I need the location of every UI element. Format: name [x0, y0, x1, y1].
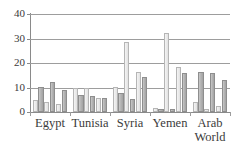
x-tick-label-line: Syria: [117, 116, 143, 130]
bar: [38, 87, 43, 112]
bar: [158, 109, 163, 112]
bar: [50, 82, 55, 112]
bar: [78, 95, 83, 112]
bar: [33, 100, 38, 112]
bar: [164, 33, 169, 112]
bar: [73, 88, 78, 112]
bar-chart: 010203040 EgyptTunisiaSyriaYemenArabWorl…: [0, 0, 234, 150]
bar: [136, 72, 141, 112]
bar-group: [70, 14, 110, 112]
y-axis-labels: 010203040: [0, 0, 27, 150]
bar-group: [150, 14, 190, 112]
bar: [102, 98, 107, 112]
bar: [84, 88, 89, 112]
y-tick-label: 20: [0, 57, 25, 68]
bar-group: [30, 14, 70, 112]
x-axis-labels: EgyptTunisiaSyriaYemenArabWorld: [30, 116, 234, 150]
bar: [96, 98, 101, 112]
bar: [113, 87, 118, 112]
bar-group: [110, 14, 150, 112]
bar: [142, 77, 147, 112]
bar: [118, 93, 123, 112]
y-tick-label: 40: [0, 8, 25, 19]
bar: [176, 67, 181, 112]
bar: [182, 73, 187, 112]
bar: [222, 80, 227, 112]
bar-group: [190, 14, 230, 112]
axis-baseline: [30, 112, 230, 113]
bar: [153, 108, 158, 112]
bar: [90, 96, 95, 112]
bar: [56, 104, 61, 112]
y-tick-label: 0: [0, 106, 25, 117]
x-tick-label-line: Egypt: [35, 116, 65, 130]
bar: [204, 109, 209, 112]
x-tick-label-line: Arab: [198, 116, 223, 130]
plot-area: [30, 14, 230, 112]
x-tick-label-line: World: [186, 130, 234, 144]
bar: [44, 102, 49, 112]
y-tick-label: 30: [0, 33, 25, 44]
x-tick-label-line: Yemen: [153, 116, 188, 130]
bar: [193, 102, 198, 112]
bar: [62, 90, 67, 112]
bar: [130, 99, 135, 112]
bar: [216, 106, 221, 112]
y-tick-label: 10: [0, 82, 25, 93]
bar: [210, 73, 215, 112]
bar: [124, 42, 129, 112]
x-tick-label-line: Tunisia: [71, 116, 108, 130]
bar: [198, 72, 203, 112]
x-tick-label: ArabWorld: [186, 116, 234, 144]
bar: [170, 109, 175, 112]
